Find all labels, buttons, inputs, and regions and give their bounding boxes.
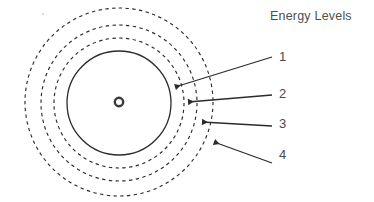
energy-levels-diagram: Energy Levels 1 2 3 4 <box>0 0 374 202</box>
shell-ring-4 <box>25 8 213 196</box>
paper-speck <box>42 13 44 15</box>
atom-shell-svg <box>0 0 374 202</box>
shell-ring-2 <box>54 38 184 168</box>
level-label-1: 1 <box>279 50 286 63</box>
level-label-4: 4 <box>279 148 286 161</box>
level-label-3: 3 <box>279 117 286 130</box>
level-label-2: 2 <box>279 87 286 100</box>
shell-ring-3 <box>41 25 197 181</box>
nucleus-icon <box>115 98 123 106</box>
annotation-arrow-2 <box>188 95 272 102</box>
annotation-arrow-1 <box>175 57 272 87</box>
shell-ring-1 <box>67 51 171 155</box>
annotation-arrow-4 <box>214 142 272 163</box>
diagram-title: Energy Levels <box>270 10 352 23</box>
annotation-arrow-3 <box>202 122 272 126</box>
